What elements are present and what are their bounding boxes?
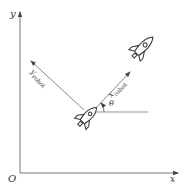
world-y-label: y xyxy=(10,9,16,19)
world-x-label: x xyxy=(170,175,175,184)
theta-label: θ xyxy=(109,100,114,108)
coordinate-diagram xyxy=(0,0,190,185)
rocket-icon-target xyxy=(127,31,158,62)
origin-label: O xyxy=(8,174,16,184)
theta-arc xyxy=(101,103,104,112)
